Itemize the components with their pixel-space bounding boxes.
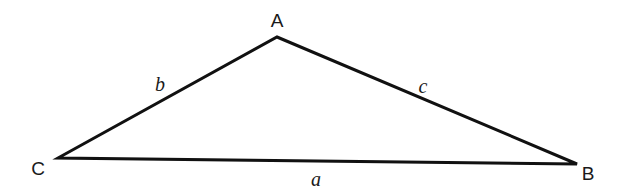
triangle-abc — [58, 37, 577, 164]
vertex-label-b: B — [582, 163, 595, 184]
side-label-b: b — [155, 73, 165, 95]
side-label-a: a — [311, 168, 321, 190]
vertex-label-c: C — [31, 158, 45, 179]
triangle-diagram: A B C a b c — [0, 0, 620, 196]
side-label-c: c — [419, 75, 428, 97]
vertex-label-a: A — [271, 10, 284, 31]
